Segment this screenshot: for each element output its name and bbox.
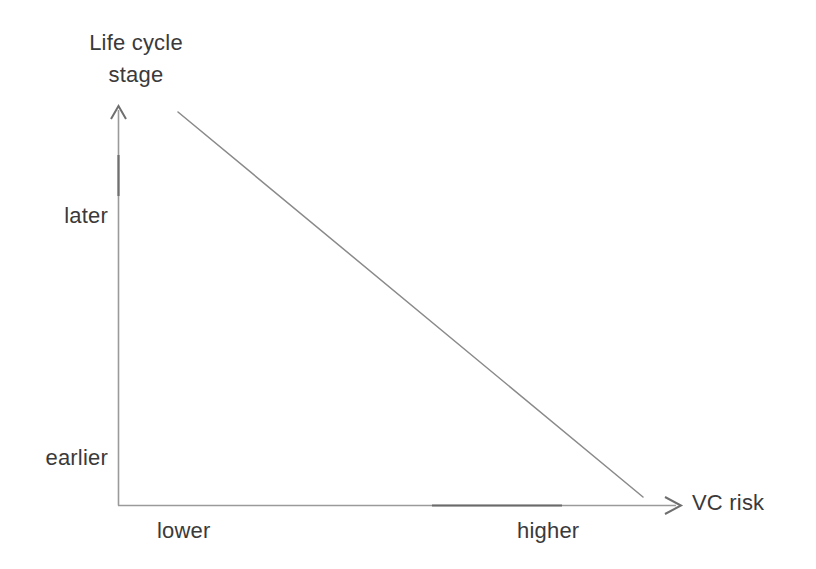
chart-title-line-1: Life cycle	[89, 30, 183, 55]
x-axis-tick-label-lower: lower	[157, 516, 211, 545]
y-axis-tick-label-earlier: earlier	[0, 443, 108, 472]
chart-title-line-2: stage	[109, 62, 164, 87]
y-axis-tick-label-later: later	[0, 201, 108, 230]
chart-title: Life cyclestage	[0, 27, 272, 91]
data-line-series-1	[178, 112, 643, 497]
x-axis-title: VC risk	[692, 488, 764, 517]
x-axis-tick-label-higher: higher	[517, 516, 579, 545]
chart-figure: Life cyclestage later earlier lower high…	[0, 0, 816, 569]
